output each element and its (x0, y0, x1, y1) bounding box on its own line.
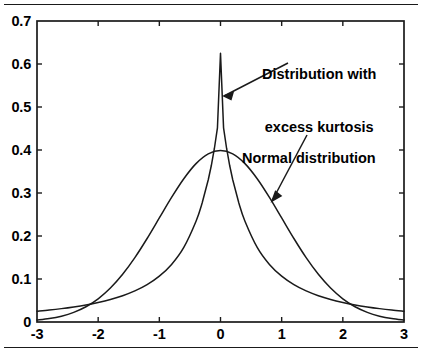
y-tick-label: 0.1 (0, 271, 31, 287)
chart-page: 00.10.20.30.40.50.60.7 -3-2-10123 Distri… (0, 0, 422, 357)
y-tick-label: 0.2 (0, 228, 31, 244)
y-tick-label: 0 (0, 314, 31, 330)
x-tick-label: 1 (278, 326, 286, 342)
y-tick-label: 0.4 (0, 142, 31, 158)
x-tick-label: 0 (217, 326, 225, 342)
x-tick-label: 3 (400, 326, 408, 342)
annotation-kurtosis-line1: Distribution with (262, 66, 376, 84)
annotation-normal-line1: Normal distribution (242, 150, 376, 168)
annotation-normal-distribution: Normal distribution (242, 115, 376, 203)
x-tick-label: -3 (31, 326, 44, 342)
y-tick-label: 0.3 (0, 185, 31, 201)
distribution-kurtosis-chart: 00.10.20.30.40.50.60.7 -3-2-10123 Distri… (0, 0, 422, 357)
y-tick-label: 0.5 (0, 99, 31, 115)
x-tick-label: 2 (339, 326, 347, 342)
y-tick-label: 0.6 (0, 56, 31, 72)
x-tick-label: -2 (92, 326, 105, 342)
y-tick-label: 0.7 (0, 13, 31, 29)
x-tick-label: -1 (153, 326, 166, 342)
